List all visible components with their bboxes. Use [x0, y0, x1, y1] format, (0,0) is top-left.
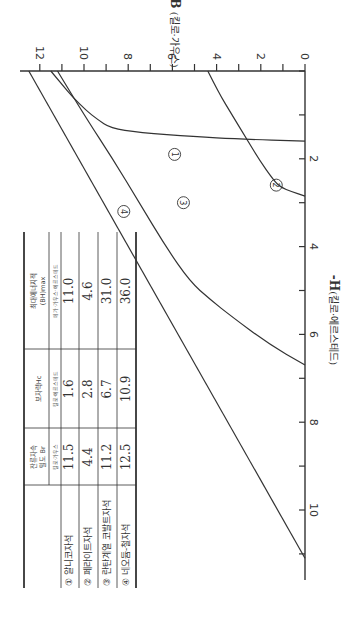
curve-label-number: 4 — [119, 209, 128, 214]
curve-3 — [58, 71, 306, 365]
magnet-name: ② 페라이트자석 — [83, 527, 93, 586]
b-axis-tick-label: 12 — [33, 46, 46, 60]
br-value: 4.4 — [81, 447, 95, 466]
h-axis-tick-label: 4 — [307, 243, 320, 250]
curve-label-number: 3 — [178, 200, 187, 205]
h-axis-label: -H(킬로·에르스테드) — [327, 275, 341, 365]
h-axis-tick-label: 2 — [307, 155, 320, 162]
table-row: ③ 란탄계열 코발트자석11.26.731.0 — [100, 278, 114, 586]
h-axis-tick-label: 6 — [307, 331, 320, 338]
b-axis-tick-label: 2 — [254, 53, 267, 60]
br-unit: 킬로·가우스 — [52, 444, 59, 471]
b-axis-label: B (킬로·가우스) — [168, 0, 182, 68]
hc-value: 6.7 — [100, 379, 114, 398]
magnet-name: ① 알니코자석 — [64, 535, 74, 586]
bh-value: 11.0 — [62, 278, 76, 305]
magnet-properties-table: 잔류자속 밀도 Br 킬로·가우스 보자력Hc 킬로·에르스테드 최대에너지적 … — [24, 232, 136, 588]
demagnetization-chart: 024681012 246810 B (킬로·가우스) -H(킬로·에르스테드)… — [0, 0, 358, 620]
magnet-name: ③ 란탄계열 코발트자석 — [101, 500, 112, 586]
curve-label-number: 1 — [170, 152, 179, 157]
bh-value: 31.0 — [100, 278, 114, 305]
bh-value: 4.6 — [81, 281, 95, 300]
curve-1 — [51, 71, 305, 141]
hc-unit: 킬로·에르스테드 — [52, 371, 59, 408]
bh-header-line2: (BH)max — [39, 277, 47, 306]
hc-header: 보자력Hc — [34, 375, 43, 402]
b-axis-tick-label: 0 — [298, 53, 311, 60]
h-axis-tick-label: 8 — [307, 419, 320, 426]
b-axis-tick-label: 8 — [121, 53, 134, 60]
curve-label-number: 2 — [271, 183, 280, 188]
magnet-name: ④ 네오듐-철자석 — [121, 524, 131, 586]
b-axis-tick-label: 10 — [77, 46, 90, 60]
b-axis-tick-label: 4 — [210, 53, 223, 60]
br-value: 12.5 — [119, 444, 133, 471]
hc-value: 2.8 — [81, 379, 95, 398]
bh-value: 36.0 — [119, 278, 133, 305]
h-axis-tick-label: 10 — [307, 503, 320, 517]
table-row: ① 알니코자석11.51.611.0 — [62, 278, 76, 586]
br-value: 11.5 — [62, 444, 76, 471]
br-value: 11.2 — [100, 444, 114, 471]
bh-header-line1: 최대에너지적 — [29, 273, 38, 309]
h-axis-label-unit: (킬로·에르스테드) — [328, 291, 340, 365]
h-axis-ticks: 246810 — [299, 71, 320, 554]
hc-value: 10.9 — [119, 376, 133, 403]
table-row: ④ 네오듐-철자석12.510.936.0 — [119, 278, 133, 586]
bh-unit: 메가·가우스·에르스테드 — [52, 264, 59, 317]
b-axis-label-unit: (킬로·가우스) — [169, 8, 181, 67]
table-rows: ① 알니코자석11.51.611.0② 페라이트자석4.42.84.6③ 란탄계… — [62, 278, 133, 586]
hc-value: 1.6 — [62, 379, 76, 398]
br-header-line1: 잔류자속 — [29, 445, 38, 469]
curve-2 — [208, 71, 305, 196]
table-row: ② 페라이트자석4.42.84.6 — [81, 281, 95, 586]
br-header-line2: 밀도 Br — [39, 446, 47, 468]
